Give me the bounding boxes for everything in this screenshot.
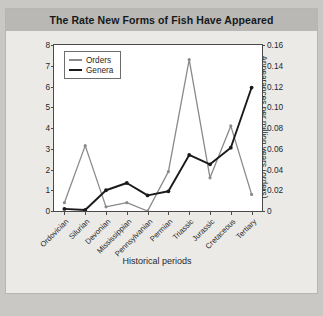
data-point bbox=[208, 176, 211, 179]
data-point bbox=[250, 86, 254, 90]
data-point bbox=[125, 181, 129, 185]
y-tickmark-primary bbox=[51, 170, 54, 171]
y-tick-primary: 8 bbox=[45, 40, 50, 50]
x-tickmark bbox=[210, 211, 211, 215]
y-tickmark-primary bbox=[51, 149, 54, 150]
chart-title-bar: The Rate New Forms of Fish Have Appeared bbox=[6, 9, 317, 31]
data-point bbox=[229, 146, 233, 150]
y-tick-secondary: 0.16 bbox=[267, 40, 283, 50]
y-tickmark-primary bbox=[51, 87, 54, 88]
data-point bbox=[229, 124, 232, 127]
y-tickmark-secondary bbox=[262, 211, 265, 212]
y-tick-secondary: 0.10 bbox=[267, 102, 283, 112]
x-tickmark bbox=[85, 211, 86, 215]
y-tickmark-primary bbox=[51, 128, 54, 129]
series-line-orders bbox=[64, 60, 251, 211]
x-axis-label: Historical periods bbox=[53, 256, 261, 266]
chart-figure: The Rate New Forms of Fish Have Appeared… bbox=[6, 9, 317, 293]
data-point bbox=[84, 144, 87, 147]
y-tickmark-secondary bbox=[262, 107, 265, 108]
legend-label-orders: Orders bbox=[86, 56, 111, 65]
x-tickmark bbox=[231, 211, 232, 215]
y-tick-primary: 5 bbox=[45, 102, 50, 112]
x-tickmark bbox=[189, 211, 190, 215]
y-tick-secondary: 0.02 bbox=[267, 185, 283, 195]
y-tickmark-primary bbox=[51, 211, 54, 212]
y-tickmark-secondary bbox=[262, 45, 265, 46]
data-point bbox=[188, 58, 191, 61]
y-tick-primary: 1 bbox=[45, 185, 50, 195]
y-tickmark-primary bbox=[51, 107, 54, 108]
y-tick-secondary: 0.12 bbox=[267, 82, 283, 92]
x-tickmark bbox=[106, 211, 107, 215]
data-point bbox=[104, 188, 108, 192]
y-tickmark-primary bbox=[51, 45, 54, 46]
y-tick-primary: 4 bbox=[45, 123, 50, 133]
data-point bbox=[250, 193, 253, 196]
legend-swatch-orders bbox=[69, 59, 82, 61]
y-tickmark-secondary bbox=[262, 190, 265, 191]
y-tick-primary: 0 bbox=[45, 206, 50, 216]
y-tickmark-secondary bbox=[262, 149, 265, 150]
x-tickmark bbox=[127, 211, 128, 215]
data-point bbox=[167, 189, 171, 193]
chart-title: The Rate New Forms of Fish Have Appeared bbox=[49, 14, 273, 26]
data-point bbox=[167, 170, 170, 173]
y-tick-secondary: 0.06 bbox=[267, 144, 283, 154]
chart-legend: Orders Genera bbox=[64, 51, 121, 79]
y-tick-primary: 3 bbox=[45, 144, 50, 154]
legend-item-genera: Genera bbox=[69, 65, 113, 75]
data-point bbox=[146, 194, 150, 198]
y-tickmark-secondary bbox=[262, 66, 265, 67]
y-tickmark-secondary bbox=[262, 170, 265, 171]
legend-label-genera: Genera bbox=[86, 66, 113, 75]
y-tick-primary: 6 bbox=[45, 82, 50, 92]
y-tick-primary: 7 bbox=[45, 61, 50, 71]
y-tick-secondary: 0.04 bbox=[267, 165, 283, 175]
plot-area: Orders Genera 01234567800.020.040.060.08… bbox=[53, 44, 263, 212]
y-tick-secondary: 0 bbox=[267, 206, 272, 216]
y-tick-primary: 2 bbox=[45, 165, 50, 175]
x-tickmark bbox=[148, 211, 149, 215]
y-tickmark-primary bbox=[51, 190, 54, 191]
y-tickmark-secondary bbox=[262, 87, 265, 88]
x-tickmark bbox=[168, 211, 169, 215]
data-point bbox=[104, 205, 107, 208]
y-tick-secondary: 0.08 bbox=[267, 123, 283, 133]
x-tickmark bbox=[64, 211, 65, 215]
legend-swatch-genera bbox=[69, 69, 82, 71]
y-tick-secondary: 0.14 bbox=[267, 61, 283, 71]
data-point bbox=[208, 162, 212, 166]
data-point bbox=[125, 201, 128, 204]
data-point bbox=[187, 153, 191, 157]
x-tickmark bbox=[252, 211, 253, 215]
data-point bbox=[63, 201, 66, 204]
y-tickmark-secondary bbox=[262, 128, 265, 129]
y-tickmark-primary bbox=[51, 66, 54, 67]
legend-item-orders: Orders bbox=[69, 55, 113, 65]
